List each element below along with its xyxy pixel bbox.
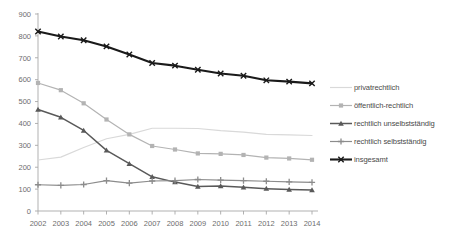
data-point-marker — [173, 147, 177, 151]
y-tick-label: 100 — [18, 185, 31, 194]
legend-swatch-triangle-icon — [330, 118, 352, 129]
legend-label: rechtlich unselbstständig — [354, 119, 435, 128]
data-point-marker — [127, 132, 131, 136]
data-point-marker — [36, 81, 40, 85]
data-point-marker — [103, 177, 109, 183]
y-tick-label: 800 — [18, 32, 31, 41]
legend-item-2[interactable]: öffentlich-rechtlich — [330, 96, 449, 114]
series-line — [38, 32, 312, 84]
x-tick-label: 2004 — [75, 219, 92, 228]
data-point-marker — [81, 181, 87, 187]
data-point-marker — [219, 152, 223, 156]
data-point-marker — [195, 176, 201, 182]
x-tick-label: 2010 — [212, 219, 229, 228]
x-tick-label: 2014 — [304, 219, 321, 228]
x-tick-label: 2013 — [281, 219, 298, 228]
chart-series-layer — [35, 29, 315, 192]
data-point-marker — [35, 107, 41, 112]
data-point-marker — [59, 88, 63, 92]
x-tick-label: 2009 — [189, 219, 206, 228]
x-tick-label: 2002 — [30, 219, 47, 228]
x-tick-label: 2008 — [167, 219, 184, 228]
legend-swatch-none-icon — [330, 82, 352, 93]
data-point-marker — [338, 138, 344, 144]
chart-page: 0100200300400500600700800900 20022003200… — [0, 0, 449, 243]
x-tick-label: 2011 — [235, 219, 251, 228]
data-point-marker — [287, 156, 291, 160]
legend-label: privatrechtlich — [354, 83, 399, 92]
data-point-marker — [35, 182, 41, 188]
data-point-marker — [286, 179, 292, 185]
x-tick-label: 2003 — [52, 219, 69, 228]
data-point-marker — [264, 155, 268, 159]
legend-item-1[interactable]: privatrechtlich — [330, 78, 449, 96]
series-4 — [35, 176, 315, 188]
data-point-marker — [218, 177, 224, 183]
chart-canvas: 0100200300400500600700800900 20022003200… — [0, 0, 330, 243]
y-tick-label: 300 — [18, 141, 31, 150]
legend-item-3[interactable]: rechtlich unselbstständig — [330, 114, 449, 132]
y-tick-label: 900 — [18, 10, 31, 19]
data-point-marker — [241, 153, 245, 157]
data-point-marker — [309, 179, 315, 185]
series-line — [38, 128, 312, 160]
data-point-marker — [339, 103, 343, 107]
legend-swatch-cross-icon — [330, 154, 352, 165]
legend-swatch-square-icon — [330, 100, 352, 111]
series-5 — [35, 29, 314, 86]
data-point-marker — [196, 151, 200, 155]
legend-label: insgesamt — [354, 155, 388, 164]
y-tick-label: 200 — [18, 163, 31, 172]
y-tick-label: 0 — [27, 207, 31, 216]
data-point-marker — [104, 117, 108, 121]
legend-item-4[interactable]: rechtlich selbstständig — [330, 132, 449, 150]
legend-item-5[interactable]: insgesamt — [330, 150, 449, 168]
legend-label: rechtlich selbstständig — [354, 137, 426, 146]
y-tick-label: 400 — [18, 119, 31, 128]
x-tick-label: 2006 — [121, 219, 138, 228]
data-point-marker — [126, 180, 132, 186]
data-point-marker — [240, 177, 246, 183]
data-point-marker — [263, 178, 269, 184]
data-point-marker — [58, 182, 64, 188]
series-1 — [38, 128, 312, 160]
x-tick-label: 2007 — [144, 219, 161, 228]
line-chart: 0100200300400500600700800900 20022003200… — [0, 0, 330, 243]
y-tick-label: 600 — [18, 75, 31, 84]
y-tick-label: 700 — [18, 54, 31, 63]
x-tick-label: 2005 — [98, 219, 115, 228]
y-tick-label: 500 — [18, 97, 31, 106]
legend-label: öffentlich-rechtlich — [354, 101, 413, 110]
data-point-marker — [82, 101, 86, 105]
chart-legend: privatrechtlichöffentlich-rechtlichrecht… — [330, 78, 449, 168]
data-point-marker — [150, 144, 154, 148]
data-point-marker — [310, 158, 314, 162]
x-axis-tick-labels: 2002200320042005200620072008200920102011… — [30, 211, 321, 228]
legend-swatch-plus-icon — [330, 136, 352, 147]
x-tick-label: 2012 — [258, 219, 275, 228]
